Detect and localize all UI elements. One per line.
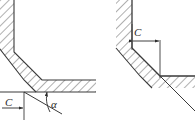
chamfer-width-label-right: C bbox=[134, 27, 141, 38]
left-view-group bbox=[0, 0, 96, 120]
chamfer-detail-figure: C α C bbox=[0, 0, 195, 120]
chamfer-width-label-left: C bbox=[5, 97, 12, 108]
drawing-canvas bbox=[0, 0, 195, 120]
right-view-group bbox=[116, 0, 195, 115]
right-material-hatch bbox=[116, 0, 195, 88]
left-alpha-leader-arrow bbox=[46, 92, 50, 112]
chamfer-angle-label-left: α bbox=[51, 99, 57, 110]
